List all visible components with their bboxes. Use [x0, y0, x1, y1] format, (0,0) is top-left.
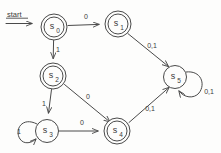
transition-s5-self-label: 0,1: [204, 88, 214, 95]
state-s5-label: s: [171, 71, 176, 81]
state-s5[interactable]: s 5: [164, 66, 187, 89]
state-diagram-canvas: start 0 1 0,1 1 0 1: [0, 0, 221, 153]
state-s2[interactable]: s 2: [40, 63, 66, 89]
transition-s0-s2: 1: [53, 41, 60, 59]
transition-s0-s1: 0: [68, 13, 99, 26]
state-s3[interactable]: s 3: [36, 120, 59, 143]
state-diagram: start 0 1 0,1 1 0 1: [0, 0, 221, 153]
state-s2-subscript: 2: [55, 76, 59, 83]
state-s0-subscript: 0: [56, 27, 60, 34]
transition-s2-s4-label: 0: [86, 93, 90, 100]
transition-s3-s4: 0: [58, 119, 98, 131]
start-arrow: start: [6, 10, 32, 24]
state-s3-label: s: [43, 125, 48, 135]
transition-s3-s4-label: 0: [80, 119, 84, 126]
transition-s1-s5-line: [128, 34, 169, 67]
state-s1-label: s: [114, 18, 119, 28]
start-label: start: [7, 10, 23, 19]
transition-s2-s3: 1: [42, 90, 51, 114]
state-s5-subscript: 5: [177, 77, 181, 84]
state-s4-subscript: 4: [119, 131, 123, 138]
state-s1-subscript: 1: [120, 24, 124, 31]
transition-s0-s1-label: 0: [84, 13, 88, 20]
state-s1[interactable]: s 1: [105, 11, 131, 37]
transition-s0-s1-line: [68, 24, 99, 25]
state-s4-label: s: [113, 125, 118, 135]
transition-s4-s5-label: 0,1: [145, 105, 155, 112]
transition-s3-self-label: 1: [17, 128, 21, 135]
transition-s3-self: 1: [17, 122, 37, 143]
state-s4[interactable]: s 4: [104, 118, 130, 144]
transition-s0-s2-label: 1: [56, 46, 60, 53]
state-s0-label: s: [50, 21, 55, 31]
transition-s4-s5: 0,1: [129, 88, 169, 123]
state-s0[interactable]: s 0: [41, 14, 67, 40]
transition-s2-s4: 0: [65, 85, 111, 123]
transition-s2-s4-line: [65, 85, 111, 123]
transition-s2-s3-label: 1: [42, 100, 46, 107]
transition-s1-s5: 0,1: [128, 34, 169, 67]
state-s2-label: s: [49, 70, 54, 80]
state-s3-subscript: 3: [49, 131, 53, 138]
transition-s2-s3-line: [49, 90, 52, 114]
transition-s1-s5-label: 0,1: [147, 42, 157, 49]
